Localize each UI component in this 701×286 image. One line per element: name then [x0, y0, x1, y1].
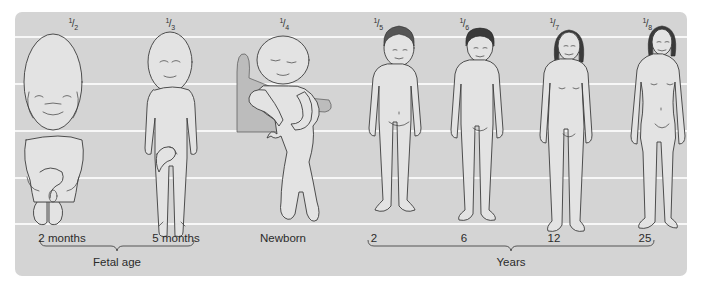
age-label-newborn: Newborn — [260, 232, 306, 244]
body-proportions-panel: 1/2 1/3 1/4 1/5 1/6 1/7 1/8 — [15, 12, 687, 276]
years-brace — [368, 240, 654, 251]
age-label-5-months: 5 months — [152, 232, 199, 244]
child-6-years-figure — [451, 28, 503, 220]
child-2-years-figure — [369, 26, 421, 211]
group-label-fetal-age: Fetal age — [93, 256, 141, 268]
fetus-5-months-figure — [145, 32, 197, 237]
adult-25-years-figure — [631, 26, 685, 228]
figures-illustration — [15, 12, 687, 276]
age-label-2-years: 2 — [371, 232, 377, 244]
adolescent-12-years-figure — [540, 30, 592, 231]
age-label-2-months: 2 months — [38, 232, 85, 244]
newborn-figure — [237, 36, 331, 221]
fetus-2-months-figure — [24, 34, 83, 225]
age-label-6-years: 6 — [461, 232, 467, 244]
age-label-12-years: 12 — [548, 232, 561, 244]
age-label-25-years: 25 — [639, 232, 652, 244]
group-label-years: Years — [497, 256, 526, 268]
